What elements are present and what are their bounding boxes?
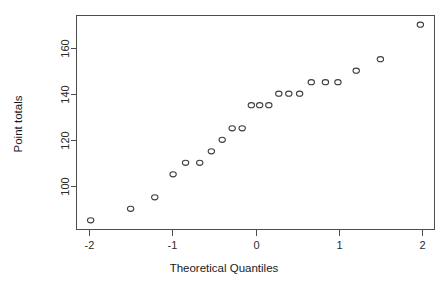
y-tick-label: 120: [59, 131, 71, 149]
data-point: [219, 137, 225, 142]
y-tick-label: 140: [59, 85, 71, 103]
plot-canvas: -2-1012 100120140160 Theoretical Quantil…: [0, 0, 448, 283]
data-point: [127, 206, 133, 211]
data-point: [417, 22, 423, 27]
data-point: [296, 91, 302, 96]
x-tick-label: 1: [336, 239, 342, 251]
data-point: [335, 80, 341, 85]
y-tick-label: 100: [59, 177, 71, 195]
data-point: [197, 160, 203, 165]
x-tick-label: 0: [253, 239, 259, 251]
data-point: [353, 68, 359, 73]
data-point: [266, 103, 272, 108]
y-axis-title: Point totals: [12, 95, 24, 152]
data-point: [182, 160, 188, 165]
data-point: [276, 91, 282, 96]
y-axis-ticks: 100120140160: [59, 39, 77, 195]
data-point: [170, 172, 176, 177]
qq-plot-figure: -2-1012 100120140160 Theoretical Quantil…: [0, 0, 448, 283]
x-axis-ticks: -2-1012: [85, 230, 426, 251]
data-point: [377, 57, 383, 62]
data-point: [229, 126, 235, 131]
x-tick-label: -2: [85, 239, 95, 251]
data-points-layer: [87, 22, 423, 223]
data-point: [308, 80, 314, 85]
y-tick-label: 160: [59, 39, 71, 57]
x-axis-title: Theoretical Quantiles: [170, 262, 279, 274]
data-point: [248, 103, 254, 108]
data-point: [152, 195, 158, 200]
data-point: [322, 80, 328, 85]
data-point: [239, 126, 245, 131]
plot-frame: [77, 16, 435, 230]
x-tick-label: 2: [419, 239, 425, 251]
x-tick-label: -1: [168, 239, 178, 251]
data-point: [256, 103, 262, 108]
data-point: [87, 218, 93, 223]
data-point: [208, 149, 214, 154]
data-point: [286, 91, 292, 96]
plot-box: [77, 16, 435, 230]
